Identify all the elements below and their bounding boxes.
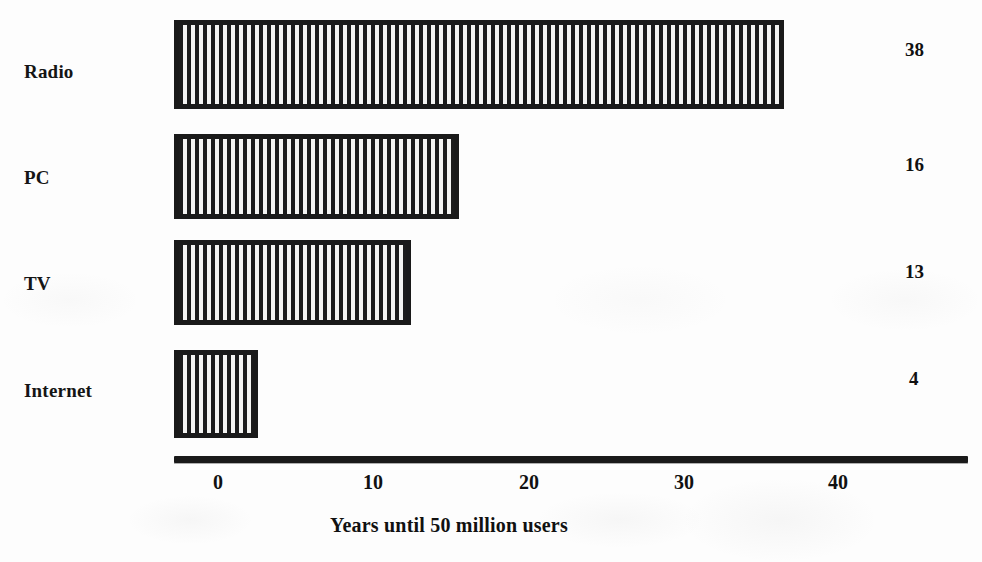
value-label-radio: 38 xyxy=(905,40,924,59)
value-label-pc: 16 xyxy=(905,155,924,174)
bar-chart: Radio PC TV Internet 38 16 13 4 0 10 20 … xyxy=(0,0,982,562)
category-label-radio: Radio xyxy=(24,62,74,81)
bar-tv xyxy=(174,240,411,325)
x-tick-label-40: 40 xyxy=(828,472,848,492)
bar-radio xyxy=(174,20,784,109)
x-tick-label-30: 30 xyxy=(674,472,694,492)
x-tick-label-10: 10 xyxy=(363,472,383,492)
value-label-tv: 13 xyxy=(905,262,924,281)
category-label-pc: PC xyxy=(24,168,50,187)
x-axis-title-text: Years until 50 million users xyxy=(330,515,568,535)
x-axis-title: Years until 50 million users xyxy=(0,515,982,535)
bar-internet xyxy=(174,350,258,438)
bar-pc xyxy=(174,134,459,219)
category-label-tv: TV xyxy=(24,274,51,293)
value-label-internet: 4 xyxy=(909,369,919,388)
category-label-internet: Internet xyxy=(24,381,92,400)
x-tick-label-0: 0 xyxy=(213,472,223,492)
x-axis-line xyxy=(174,456,968,463)
x-tick-label-20: 20 xyxy=(519,472,539,492)
